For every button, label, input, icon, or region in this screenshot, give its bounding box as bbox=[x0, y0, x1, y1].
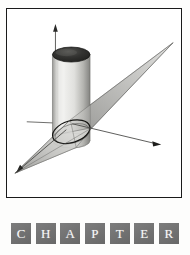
figure-illustration bbox=[7, 9, 181, 197]
chapter-letter-tile: E bbox=[134, 223, 154, 244]
chapter-letter-tile: P bbox=[85, 223, 105, 244]
chapter-letter-tile: A bbox=[60, 223, 80, 244]
page-root: C H A P T E R bbox=[0, 0, 190, 255]
chapter-letter-tile: R bbox=[159, 223, 179, 244]
figure-frame bbox=[6, 8, 182, 198]
chapter-letter-tile: C bbox=[11, 223, 31, 244]
chapter-word: C H A P T E R bbox=[11, 222, 179, 244]
cylinder-cap-sheen bbox=[55, 49, 77, 56]
chapter-letter-tile: H bbox=[36, 223, 56, 244]
chapter-letter-tile: T bbox=[110, 223, 130, 244]
